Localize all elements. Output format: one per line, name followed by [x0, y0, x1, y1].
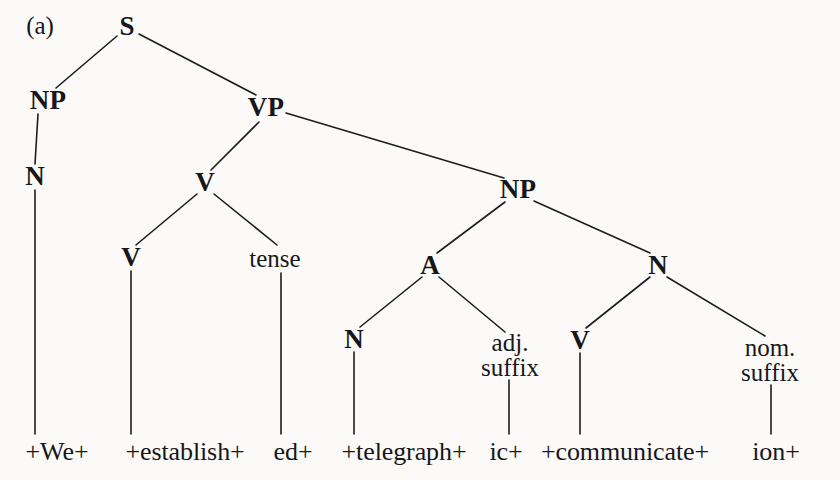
tree-edge-np1-to-n1: [35, 114, 38, 164]
syntax-tree-figure: (a) SNPVPNVNPVtenseANNadj. suffixVnom. s…: [0, 0, 840, 480]
tree-node-v3: V: [570, 326, 590, 354]
figure-label: (a): [26, 12, 54, 40]
tree-edge-s-to-vp: [139, 34, 256, 95]
tree-edge-np2-to-a: [437, 202, 505, 253]
morpheme-leaf6: +communicate+: [541, 437, 709, 467]
tree-edge-n2-to-nomsuf: [667, 277, 765, 336]
tree-node-adjsuf: adj. suffix: [481, 330, 539, 380]
tree-node-tense: tense: [249, 246, 300, 272]
morpheme-leaf4: +telegraph+: [342, 437, 467, 467]
tree-edge-vp-to-np2: [286, 113, 504, 178]
tree-node-np1: NP: [30, 86, 66, 114]
tree-node-np2: NP: [500, 175, 536, 203]
tree-node-v1: V: [195, 168, 215, 196]
tree-node-n3: N: [344, 325, 364, 353]
tree-node-v2: V: [121, 243, 141, 271]
tree-edge-a-to-adjsuf: [439, 277, 505, 332]
tree-node-vp: VP: [248, 93, 284, 121]
tree-edge-np2-to-n2: [534, 201, 650, 253]
morpheme-leaf2: +establish+: [125, 437, 244, 467]
tree-edge-s-to-np1: [56, 36, 117, 88]
tree-node-n2: N: [648, 251, 668, 279]
tree-node-s: S: [119, 12, 134, 40]
tree-edge-n2-to-v3: [586, 277, 650, 328]
morpheme-leaf7: ion+: [752, 437, 800, 467]
morpheme-leaf1: +We+: [26, 437, 89, 467]
morpheme-leaf3: ed+: [274, 437, 313, 467]
morpheme-leaf5: ic+: [489, 437, 522, 467]
tree-edge-vp-to-v1: [211, 122, 259, 170]
tree-edge-v1-to-v2: [136, 194, 197, 245]
tree-edge-a-to-n3: [360, 277, 422, 327]
tree-node-a: A: [420, 251, 440, 279]
tree-node-n1: N: [25, 162, 45, 190]
tree-edge-v1-to-tense: [214, 194, 277, 245]
tree-edge-layer: [0, 0, 840, 480]
tree-node-nomsuf: nom. suffix: [741, 335, 799, 385]
